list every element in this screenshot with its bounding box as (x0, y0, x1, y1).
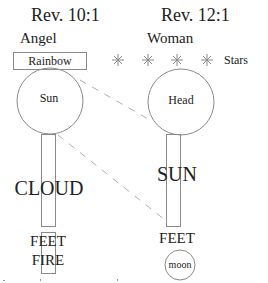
angel-body-label: CLOUD (15, 178, 84, 198)
star-icons (112, 54, 213, 66)
star-icon (201, 54, 213, 66)
angel-subject-label: Angel (20, 31, 57, 46)
stars-label: Stars (224, 54, 248, 66)
woman-verse-title: Rev. 12:1 (161, 6, 230, 24)
revelation-comparison-diagram: Rev. 10:1 Angel Rainbow Sun CLOUD FEET F… (0, 0, 268, 283)
angel-feet-sub-label: FIRE (32, 253, 65, 268)
stray-marks (3, 279, 118, 281)
woman-head-label: Head (168, 94, 193, 106)
angel-feet-label: FEET (30, 234, 66, 249)
star-icon (112, 54, 124, 66)
woman-body-label: SUN (157, 164, 197, 184)
woman-subject-label: Woman (147, 31, 193, 46)
angel-head-label: Sun (40, 92, 59, 104)
moon-label: moon (169, 260, 192, 270)
star-icon (142, 54, 154, 66)
star-icon (171, 54, 183, 66)
rainbow-label: Rainbow (28, 55, 71, 67)
dashed-link-head (80, 80, 150, 120)
woman-feet-label: FEET (159, 231, 195, 246)
angel-verse-title: Rev. 10:1 (31, 6, 100, 24)
